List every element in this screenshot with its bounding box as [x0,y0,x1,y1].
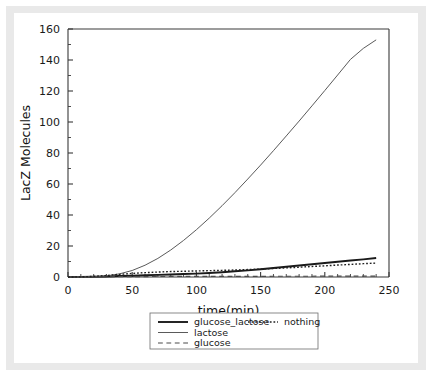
legend-label-nothing: nothing [284,316,320,327]
y-axis-title: LacZ Molecules [18,105,33,201]
y-tick-label: 140 [39,54,60,67]
x-tick-label: 0 [65,284,72,297]
y-tick-label: 120 [39,85,60,98]
x-tick-label: 250 [379,284,400,297]
x-tick-label: 200 [314,284,335,297]
chart-svg: 020406080100120140160050100150200250time… [14,13,418,363]
screenshot-page: 020406080100120140160050100150200250time… [0,0,432,376]
y-tick-label: 80 [46,147,60,160]
legend-label-glucose_lactose: glucose_lactose [194,316,269,327]
y-tick-label: 100 [39,116,60,129]
y-tick-label: 160 [39,23,60,36]
x-tick-label: 50 [125,284,139,297]
y-tick-label: 40 [46,209,60,222]
x-tick-label: 100 [186,284,207,297]
x-tick-label: 150 [250,284,271,297]
chart-figure: 020406080100120140160050100150200250time… [14,13,418,363]
legend-label-glucose: glucose [194,337,231,348]
series-line-lactose [68,40,376,277]
y-tick-label: 20 [46,240,60,253]
y-tick-label: 60 [46,178,60,191]
legend-label-lactose: lactose [194,327,228,338]
y-tick-label: 0 [53,271,60,284]
